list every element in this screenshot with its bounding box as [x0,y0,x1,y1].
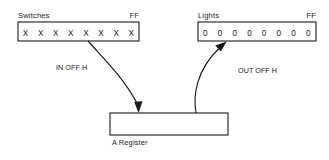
output-signal-label: OUT OFF H [238,66,277,75]
switches-cell[interactable]: X [113,29,119,38]
switches-cell[interactable]: X [23,29,29,38]
lights-cell[interactable]: 0 [203,29,208,38]
lights-cell[interactable]: 0 [247,29,252,38]
lights-cell[interactable]: 0 [306,29,311,38]
input-flow-line [88,41,138,104]
switches-group: Switches FF X X X X X X X X [18,11,139,41]
switches-cell[interactable]: X [68,29,74,38]
logic-diagram: Switches FF X X X X X X X X Lights FF 0 … [0,0,329,160]
switches-header-label: Switches [18,11,50,20]
lights-ff-label: FF [306,11,316,20]
lights-header-label: Lights [198,11,219,20]
diagram-canvas: Switches FF X X X X X X X X Lights FF 0 … [0,0,329,160]
switches-box[interactable] [18,22,139,41]
switches-ff-label: FF [129,11,139,20]
lights-cell[interactable]: 0 [291,29,296,38]
switches-cell[interactable]: X [38,29,44,38]
switches-cell[interactable]: X [83,29,89,38]
a-register-group: A Register [110,113,228,147]
lights-cell[interactable]: 0 [218,29,223,38]
lights-box[interactable] [198,22,316,41]
input-signal-label: IN OFF H [56,63,87,72]
switches-cell[interactable]: X [53,29,59,38]
switches-cell[interactable]: X [98,29,104,38]
lights-cell[interactable]: 0 [232,29,237,38]
output-flow-line [195,48,219,113]
input-arrow-head-icon [134,101,142,113]
input-flow-arrow [88,41,143,113]
a-register-label: A Register [112,138,148,147]
lights-group: Lights FF 0 0 0 0 0 0 0 0 [198,11,316,41]
lights-cell[interactable]: 0 [277,29,282,38]
output-flow-arrow [195,42,226,114]
a-register-box[interactable] [110,113,228,135]
lights-cell[interactable]: 0 [262,29,267,38]
switches-cell[interactable]: X [128,29,134,38]
